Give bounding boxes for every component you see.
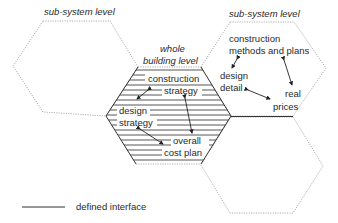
construction-methods-label-line2: methods and plans [229, 45, 310, 56]
center-level-label-line2: building level [143, 55, 199, 66]
center-level-label-line1: whole [160, 43, 185, 54]
hexagon-diagram: sub-system level sub-system level whole … [0, 0, 338, 223]
legend-label: defined interface [76, 201, 146, 212]
design-strategy-label-line1: design [119, 105, 147, 116]
design-detail-label-line2: detail [220, 82, 243, 93]
left-subsystem-hexagon [13, 21, 138, 116]
right-level-label: sub-system level [229, 8, 301, 19]
overall-cost-plan-label-line1: overall [173, 135, 201, 146]
construction-strategy-label-line1: construction [148, 73, 199, 84]
construction-strategy-label-line2: strategy [164, 85, 198, 96]
real-prices-label-line1: real [285, 88, 301, 99]
overall-cost-plan-label-line2: cost plan [164, 147, 202, 158]
construction-methods-label-line1: construction [229, 33, 280, 44]
bottom-right-subsystem-hexagon [201, 117, 323, 213]
design-strategy-label-line2: strategy [119, 117, 153, 128]
real-prices-label-line2: prices [273, 101, 299, 112]
design-detail-label-line1: design [220, 70, 248, 81]
left-level-label: sub-system level [44, 6, 116, 17]
